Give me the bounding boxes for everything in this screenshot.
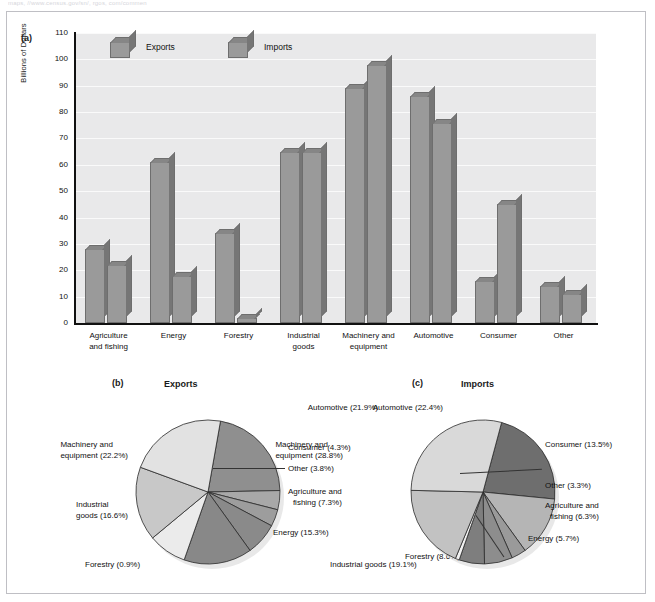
bar-exports-7 [540,286,560,323]
exports-pie-label-energy: Energy (15.3%) [273,528,329,539]
bar-imports-7 [562,294,582,323]
bar-exports-6 [475,281,495,323]
y-tick-label: 100 [36,54,68,63]
bar-side-face [386,55,392,317]
gridline [76,86,596,87]
bar-imports-1 [172,276,192,323]
bar-imports-4 [367,65,387,323]
legend-swatch-exports [110,42,130,58]
gridline [76,59,596,60]
y-tick-label: 80 [36,107,68,116]
figure-page: maps, //www.census.gov/sn/, rgos, com/co… [0,0,655,602]
bar-imports-3 [302,152,322,323]
panel-b-tag: (b) [112,378,124,388]
legend-item-imports: Imports [228,42,292,52]
bar-imports-5 [432,123,452,323]
exports-pie-label-other: Other (3.8%) [288,464,334,475]
y-tick-label: 60 [36,160,68,169]
exports-pie-label-agriculture-and-fishing: Agriculture andfishing (7.3%) [288,487,342,508]
x-category-label: Other [520,330,608,341]
y-axis-line [74,32,76,324]
bar-imports-6 [497,204,517,323]
imports-pie-label-industrial-goods: Industrial goods (19.1%) [330,560,417,571]
bar-side-face [516,194,522,317]
y-tick-label: 0 [36,318,68,327]
bar-side-face [191,266,197,317]
y-tick-label: 40 [36,213,68,222]
imports-pie-label-energy: Energy (5.7%) [528,534,579,545]
legend-item-exports: Exports [110,42,175,52]
top-caption: maps, //www.census.gov/sn/, rgos, com/co… [8,0,288,9]
y-tick-label: 30 [36,239,68,248]
bar-exports-0 [85,249,105,323]
y-tick-label: 70 [36,133,68,142]
imports-pie-label-forestry: Forestry (0.9%) [85,560,140,571]
bar-side-face [321,142,327,317]
exports-pie-label-automotive: Automotive (21.9%) [308,403,378,414]
bar-imports-2 [237,318,257,323]
bar-side-face [451,113,457,317]
bar-imports-0 [107,265,127,323]
legend-label-exports: Exports [146,42,175,52]
legend-swatch-imports [228,42,248,58]
exports-pie-label-machinery-and-equipment: Machinery andequipment (22.2%) [60,440,128,461]
gridline [76,33,596,34]
imports-pie-label-other: Other (3.3%) [545,481,591,492]
bar-exports-3 [280,152,300,323]
exports-pie-label-industrial-goods: Industrialgoods (16.6%) [76,500,128,521]
imports-pie-label-machinery-and-equipment: Machinery andequipment (28.8%) [275,440,343,461]
y-tick-label: 90 [36,81,68,90]
x-axis-line [74,323,598,325]
imports-pie-label-agriculture-and-fishing: Agriculture andfishing (6.3%) [545,501,599,522]
bar-exports-5 [410,96,430,323]
y-tick-label: 20 [36,265,68,274]
panel-b-title: Exports [164,379,198,389]
legend-label-imports: Imports [264,42,292,52]
panel-c-title: Imports [461,379,494,389]
gridline [76,138,596,139]
bar-side-face [581,284,587,317]
imports-pie-label-consumer: Consumer (13.5%) [545,440,612,451]
bar-exports-2 [215,233,235,323]
bar-side-face [234,223,240,317]
bar-side-face [126,255,132,317]
gridline [76,112,596,113]
y-tick-label: 110 [36,28,68,37]
y-tick-label: 10 [36,292,68,301]
bar-exports-1 [150,162,170,323]
bar-exports-4 [345,88,365,323]
panel-c-tag: (c) [412,378,423,388]
y-axis-label: Billions of Dollars [19,0,28,113]
imports-pie-chart [398,410,568,580]
exports-other-leader [213,468,285,469]
y-tick-label: 50 [36,186,68,195]
imports-pie-label-automotive: Automotive (22.4%) [373,403,443,414]
exports-pie-chart [123,410,293,580]
